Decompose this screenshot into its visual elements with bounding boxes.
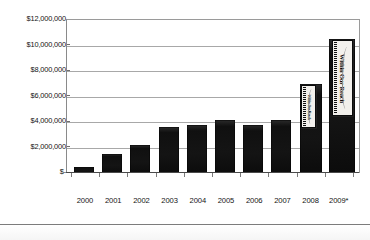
y-axis-tick-10000000: $10,000,000 bbox=[4, 41, 66, 49]
book-cover-overlay-2009: Within Our Reach bbox=[332, 40, 353, 116]
bar-2007 bbox=[271, 120, 291, 173]
x-tick-mark bbox=[71, 173, 72, 177]
bar-chart-figure: $12,000,000 $10,000,000 $8,000,000 $6,00… bbox=[0, 0, 370, 240]
gridline-8000000 bbox=[67, 71, 359, 72]
y-axis-tick-zero: $- bbox=[4, 168, 66, 176]
y-axis-tick-8000000: $8,000,000 bbox=[4, 66, 66, 74]
y-axis-tick-12000000: $12,000,000 bbox=[4, 15, 66, 23]
x-axis-tick-2009: 2009* bbox=[322, 196, 356, 205]
footer-divider bbox=[0, 224, 370, 225]
bar-2005 bbox=[215, 120, 235, 173]
x-tick-mark bbox=[156, 173, 157, 177]
x-tick-mark bbox=[127, 173, 128, 177]
bar-2006 bbox=[243, 125, 263, 174]
x-tick-mark bbox=[297, 173, 298, 177]
bar-2003 bbox=[159, 127, 179, 173]
x-tick-mark bbox=[240, 173, 241, 177]
bar-2004 bbox=[187, 125, 207, 174]
x-tick-mark bbox=[268, 173, 269, 177]
bar-2002 bbox=[130, 145, 150, 173]
y-axis-tick-2000000: $2,000,000 bbox=[4, 143, 66, 151]
book-title-2008: Within Our Reach bbox=[302, 86, 315, 127]
x-tick-mark bbox=[353, 173, 354, 177]
book-cover-overlay-2008: Within Our Reach bbox=[301, 85, 316, 128]
y-axis-tick-6000000: $6,000,000 bbox=[4, 92, 66, 100]
x-tick-mark bbox=[212, 173, 213, 177]
scan-artifact-band bbox=[0, 225, 370, 240]
y-axis-tick-4000000: $4,000,000 bbox=[4, 117, 66, 125]
x-tick-mark bbox=[184, 173, 185, 177]
plot-area: Within Our Reach Within Our Reach bbox=[66, 19, 360, 173]
book-title-2009: Within Our Reach bbox=[333, 41, 352, 115]
x-tick-mark bbox=[325, 173, 326, 177]
bar-2001 bbox=[102, 154, 122, 173]
gridline-10000000 bbox=[67, 46, 359, 47]
x-tick-mark bbox=[99, 173, 100, 177]
